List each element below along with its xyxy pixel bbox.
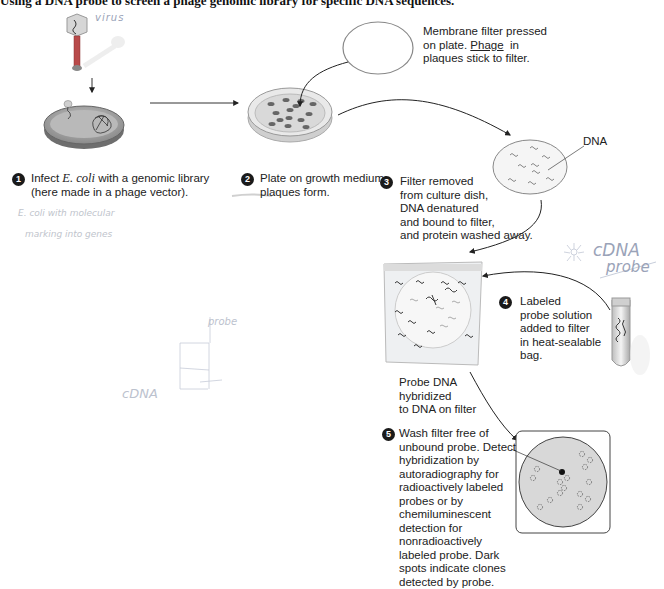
- handwritten-probe: probe: [606, 258, 650, 276]
- step-5-line: hybridization by: [399, 454, 479, 466]
- step-5-line: probes or by: [399, 495, 463, 507]
- step-4-text: Labeled probe solution added to filter i…: [520, 295, 601, 363]
- step-3-line: Filter removed: [400, 175, 474, 187]
- step-1-italic: E. coli: [62, 171, 95, 185]
- heat-sealable-bag-icon: [384, 262, 482, 365]
- step-4-line: probe solution: [520, 309, 592, 321]
- handwritten-virus: virus: [95, 12, 124, 23]
- step-4-line: in heat-sealable: [520, 336, 601, 348]
- handwritten-ecoli-note-2: marking into genes: [25, 229, 112, 239]
- membrane-caption: Membrane filter pressed on plate. Phage …: [423, 25, 547, 66]
- step-5-line: detected by probe.: [399, 576, 494, 588]
- handwritten-cdna-label: cDNA: [122, 386, 158, 401]
- step-5-line: unbound probe. Detect: [399, 441, 516, 453]
- step-5-line: labeled probe. Dark: [399, 549, 499, 561]
- membrane-line1: Membrane filter pressed: [423, 25, 547, 37]
- petri-dish-icon: [248, 88, 332, 142]
- step-3-number: 3: [380, 176, 393, 189]
- membrane-line2-suffix: in: [504, 39, 519, 51]
- hybridized-line: to DNA on filter: [399, 403, 476, 415]
- membrane-line3: plaques stick to filter.: [423, 52, 530, 64]
- dna-label: DNA: [583, 135, 607, 149]
- handwritten-sketch: [180, 317, 222, 389]
- hybridized-caption: Probe DNA hybridized to DNA on filter: [399, 376, 476, 417]
- step-1-line2: (here made in a phage vector).: [31, 186, 188, 198]
- membrane-line2-prefix: on plate.: [423, 39, 470, 51]
- step-5-line: detection for: [399, 522, 462, 534]
- step-3-text: Filter removed from culture dish, DNA de…: [400, 175, 533, 243]
- step-5-number: 5: [382, 428, 395, 441]
- step-4-line: bag.: [520, 349, 542, 361]
- step-3-line: and protein washed away.: [400, 229, 533, 241]
- handwritten-ecoli-note-1: E. coli with molecular: [18, 208, 114, 218]
- probe-tube-icon: [612, 298, 650, 375]
- step-5-line: nonradioactively: [399, 535, 482, 547]
- step-3-line: DNA denatured: [400, 202, 479, 214]
- bacterium-icon: [44, 101, 124, 150]
- step-1-suffix: with a genomic library: [95, 172, 209, 184]
- membrane-filter-icon: [343, 22, 413, 74]
- step-5-line: spots indicate clones: [399, 562, 506, 574]
- step-4-line: added to filter: [520, 322, 590, 334]
- step-4-number: 4: [499, 296, 512, 309]
- handwritten-probe-label: probe: [208, 316, 237, 327]
- step-2-line1: Plate on growth medium;: [260, 172, 387, 184]
- step-5-line: Wash filter free of: [399, 427, 489, 439]
- handwritten-cdna: cDNA: [593, 240, 640, 260]
- membrane-line2-phage: Phage: [470, 39, 503, 51]
- step-5-line: radioactively labeled: [399, 481, 503, 493]
- step-1-text: Infect E. coli with a genomic library (h…: [31, 172, 209, 199]
- step-1-number: 1: [12, 173, 25, 186]
- step-5-text: Wash filter free of unbound probe. Detec…: [399, 427, 516, 589]
- step-2-text: Plate on growth medium; plaques form.: [260, 172, 387, 199]
- step-1-prefix: Infect: [31, 172, 62, 184]
- step-2-number: 2: [241, 173, 254, 186]
- step-5-line: chemiluminescent: [399, 508, 491, 520]
- arrow-curve-icon: [338, 100, 510, 135]
- step-5-line: autoradiography for: [399, 468, 499, 480]
- step-4-line: Labeled: [520, 295, 561, 307]
- hybridized-line: hybridized: [399, 390, 451, 402]
- flower-doodle: [564, 243, 584, 261]
- step-2-line2: plaques form.: [260, 186, 330, 198]
- step-3-line: from culture dish,: [400, 189, 488, 201]
- hybridized-line: Probe DNA: [399, 376, 457, 388]
- step-3-line: and bound to filter,: [400, 216, 495, 228]
- autoradiograph-result-icon: [511, 431, 610, 533]
